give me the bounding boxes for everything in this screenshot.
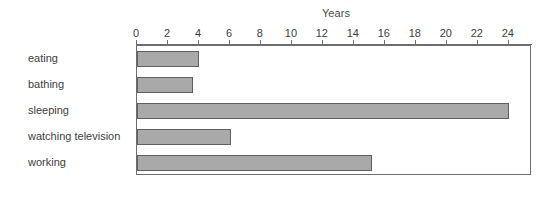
x-axis-tick-label: 0	[133, 27, 139, 39]
category-label-watching-television: watching television	[4, 130, 124, 142]
category-label-working: working	[4, 156, 124, 168]
category-label-sleeping: sleeping	[4, 104, 124, 116]
y-axis-category-labels: eatingbathingsleepingwatching television…	[0, 45, 130, 175]
x-axis-tick-label: 20	[440, 27, 452, 39]
x-axis-tick-label: 22	[471, 27, 483, 39]
x-axis-tick-label: 14	[347, 27, 359, 39]
category-label-bathing: bathing	[4, 78, 124, 90]
bar-watching-television	[137, 129, 231, 145]
bar-chart: Years 024681012141618202224 eatingbathin…	[0, 0, 560, 197]
axis-title: Years	[0, 7, 560, 19]
plot-area	[136, 45, 531, 175]
x-axis: 024681012141618202224	[136, 26, 532, 45]
bar-sleeping	[137, 103, 509, 119]
category-label-eating: eating	[4, 52, 124, 64]
x-axis-tick-label: 8	[257, 27, 263, 39]
x-axis-tick-label: 16	[378, 27, 390, 39]
x-axis-tick-label: 10	[285, 27, 297, 39]
x-axis-tick-label: 6	[226, 27, 232, 39]
x-axis-tick-label: 24	[502, 27, 514, 39]
bar-bathing	[137, 77, 193, 93]
axis-title-text: Years	[322, 7, 350, 19]
bar-working	[137, 155, 372, 171]
x-axis-tick-label: 18	[409, 27, 421, 39]
x-axis-tick-label: 4	[195, 27, 201, 39]
x-axis-tick-label: 12	[316, 27, 328, 39]
x-axis-tick-label: 2	[164, 27, 170, 39]
bar-eating	[137, 51, 199, 67]
